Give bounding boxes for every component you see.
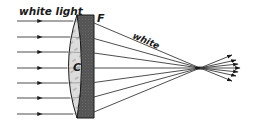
diverging-rays	[200, 55, 240, 81]
crown-lens-label: C	[73, 61, 81, 74]
incoming-rays	[17, 21, 73, 114]
flint-lens-label: F	[97, 12, 105, 25]
converging-ray	[94, 68, 200, 83]
achromatic-lens-diagram: white light F C white	[0, 0, 254, 129]
diverging-ray	[200, 60, 236, 68]
diverging-ray	[200, 68, 236, 76]
white-light-label: white light	[19, 5, 84, 17]
converging-ray	[94, 68, 200, 97]
converging-ray	[94, 68, 200, 112]
converging-ray	[94, 53, 200, 68]
white-label: white	[131, 31, 161, 51]
